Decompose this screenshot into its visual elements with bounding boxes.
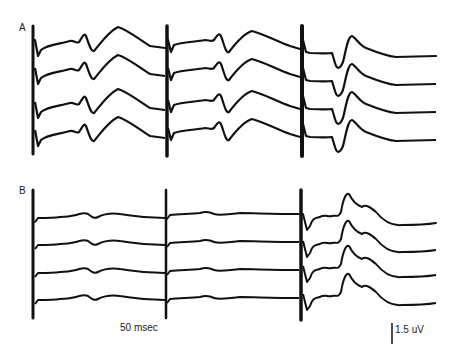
- panel-b-label: B: [19, 185, 26, 196]
- evoked-potential-figure: [0, 0, 454, 360]
- panel-a-label: A: [19, 22, 26, 33]
- amplitude-scale-label: 1.5 uV: [395, 324, 424, 335]
- time-scale-label: 50 msec: [120, 322, 158, 333]
